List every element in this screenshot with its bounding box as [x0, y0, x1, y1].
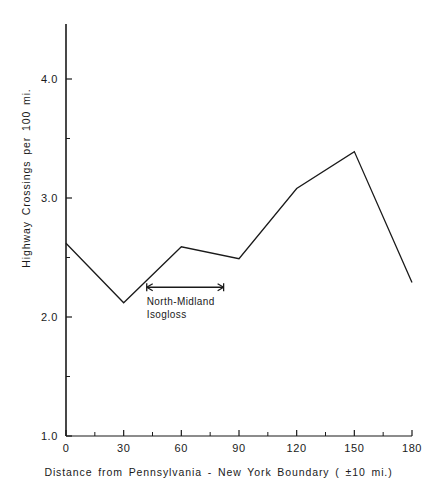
x-tick-label: 120: [287, 442, 307, 454]
x-tick-label: 150: [344, 442, 364, 454]
x-axis-title: Distance from Pennsylvania - New York Bo…: [0, 466, 437, 478]
y-tick-label: 1.0: [24, 430, 58, 442]
isogloss-arrow: [147, 283, 224, 291]
x-tick-label: 60: [175, 442, 188, 454]
data-series-line: [66, 152, 412, 303]
chart-figure: 1.02.03.04.0 0306090120150180 Highway Cr…: [0, 0, 437, 490]
x-tick-label: 180: [402, 442, 422, 454]
x-tick-label: 30: [117, 442, 130, 454]
isogloss-annotation-label: North-Midland Isogloss: [147, 295, 215, 321]
y-axis-title: Highway Crossings per 100 mi.: [20, 78, 32, 278]
x-tick-label: 90: [232, 442, 245, 454]
isogloss-label-line-1: North-Midland: [147, 295, 215, 308]
line-chart-canvas: [0, 0, 437, 490]
isogloss-label-line-2: Isogloss: [147, 308, 215, 321]
x-tick-label: 0: [63, 442, 70, 454]
y-tick-label: 2.0: [24, 311, 58, 323]
x-axis-major-ticks: [66, 430, 412, 436]
